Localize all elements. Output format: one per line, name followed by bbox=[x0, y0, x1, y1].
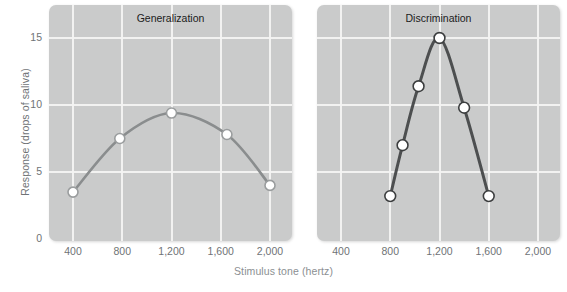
x-axis-tick-labels-generalization: 4008001,2001,6002,000 bbox=[49, 245, 292, 261]
data-point-marker bbox=[167, 108, 177, 118]
x-axis-tick-label: 2,000 bbox=[525, 245, 551, 257]
data-point-marker bbox=[459, 102, 470, 113]
x-axis-title: Stimulus tone (hertz) bbox=[0, 265, 567, 277]
data-point-marker bbox=[222, 129, 232, 139]
chart-panel-discrimination: Discrimination bbox=[317, 5, 560, 241]
data-line bbox=[390, 38, 489, 196]
x-axis-tick-label: 2,000 bbox=[257, 245, 283, 257]
y-axis-tick-label: 0 bbox=[3, 232, 49, 244]
chart-panel-generalization: Generalization bbox=[49, 5, 292, 241]
x-axis-tick-label: 1,600 bbox=[208, 245, 234, 257]
panel-title-generalization: Generalization bbox=[49, 12, 292, 24]
y-axis-tick-labels: 051015 bbox=[0, 0, 49, 292]
data-point-marker bbox=[265, 180, 275, 190]
figure-root: Response (drops of saliva) 051015 Genera… bbox=[0, 0, 567, 292]
x-axis-tick-label: 400 bbox=[332, 245, 350, 257]
x-axis-tick-label: 800 bbox=[381, 245, 399, 257]
y-axis-tick-label: 15 bbox=[3, 31, 49, 43]
series-generalization bbox=[49, 5, 292, 241]
x-axis-tick-label: 1,600 bbox=[476, 245, 502, 257]
data-point-marker bbox=[385, 191, 396, 202]
panel-title-discrimination: Discrimination bbox=[317, 12, 560, 24]
x-axis-tick-label: 400 bbox=[64, 245, 82, 257]
data-point-marker bbox=[115, 134, 125, 144]
data-point-marker bbox=[397, 140, 408, 151]
data-point-marker bbox=[413, 81, 424, 92]
x-axis-tick-label: 1,200 bbox=[158, 245, 184, 257]
data-point-marker bbox=[68, 187, 78, 197]
data-line bbox=[73, 113, 270, 192]
y-axis-tick-label: 5 bbox=[3, 165, 49, 177]
data-point-marker bbox=[483, 191, 494, 202]
y-axis-tick-label: 10 bbox=[3, 98, 49, 110]
series-discrimination bbox=[317, 5, 560, 241]
x-axis-tick-labels-discrimination: 4008001,2001,6002,000 bbox=[317, 245, 560, 261]
x-axis-tick-label: 1,200 bbox=[426, 245, 452, 257]
data-point-marker bbox=[434, 33, 445, 44]
x-axis-tick-label: 800 bbox=[113, 245, 131, 257]
